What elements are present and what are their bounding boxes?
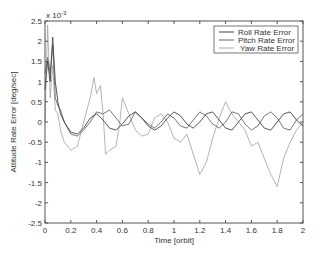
legend-label-yaw: Yaw Rate Error [240, 44, 294, 53]
y-tick-label: -0.5 [28, 138, 42, 147]
y-tick-label: -1 [35, 158, 43, 167]
legend: Roll Rate Error Pitch Rate Error Yaw Rat… [214, 26, 298, 53]
x-tick-label: 2 [301, 226, 306, 235]
attitude-rate-error-chart: 00.20.40.60.811.21.41.61.82 2.521.510.50… [0, 0, 320, 255]
y-tick-label: 2 [38, 37, 43, 46]
x-tick-label: 1 [172, 226, 177, 235]
y-tick-label: 1.5 [31, 57, 43, 66]
x-tick-label: 1.2 [194, 226, 206, 235]
y-tick-label: -2 [35, 199, 43, 208]
x-tick-label: 0.8 [143, 226, 155, 235]
y-tick-label: -2.5 [28, 219, 42, 228]
y-tick-label: -1.5 [28, 179, 42, 188]
y-tick-label: 0.5 [31, 98, 43, 107]
y-tick-label: 0 [38, 118, 43, 127]
y-tick-label: 1 [38, 78, 43, 87]
y-multiplier-label: x 10-3 [46, 10, 67, 20]
x-axis-label: Time [orbit] [154, 236, 194, 245]
x-tick-label: 0.2 [65, 226, 77, 235]
y-tick-label: 2.5 [31, 17, 43, 26]
x-tick-label: 0.6 [117, 226, 129, 235]
y-axis-label: Attitude Rate Error [deg/sec] [9, 72, 18, 173]
x-tick-label: 1.6 [246, 226, 258, 235]
x-tick-label: 1.4 [220, 226, 232, 235]
x-tick-label: 0 [43, 226, 48, 235]
x-tick-label: 1.8 [272, 226, 284, 235]
x-tick-label: 0.4 [91, 226, 103, 235]
